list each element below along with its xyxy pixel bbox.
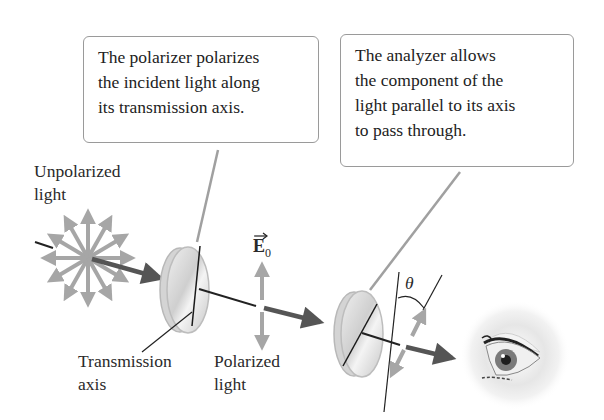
theta-label: θ <box>405 272 414 295</box>
analyzer-disk-icon <box>334 291 383 377</box>
transmitted-beam <box>406 347 452 358</box>
polarizer-callout: The polarizer polarizes the incident lig… <box>83 36 319 143</box>
polarizer-leader-line <box>197 150 218 242</box>
theta-arc <box>398 296 424 308</box>
polarizer-callout-line-1: The polarizer polarizes <box>98 45 308 70</box>
unpolarized-light-label: Unpolarized light <box>34 160 121 206</box>
unpolarized-light-star-icon <box>45 213 131 303</box>
polarizer-callout-line-3: its transmission axis. <box>98 95 308 120</box>
transmission-axis-label: Transmission axis <box>78 350 172 396</box>
eye-icon <box>460 300 570 410</box>
analyzer-callout: The analyzer allows the component of the… <box>340 34 574 167</box>
analyzer-callout-line-4: to pass through. <box>355 118 563 143</box>
analyzer-leader-line <box>370 172 460 290</box>
analyzer-axis-line <box>423 275 442 310</box>
transmitted-field-arrow-down <box>392 350 404 374</box>
transmitted-field-arrow <box>412 312 424 336</box>
analyzer-callout-line-2: the component of the <box>355 68 563 93</box>
polarizer-callout-line-2: the incident light along <box>98 70 308 95</box>
analyzer-callout-line-3: light parallel to its axis <box>355 93 563 118</box>
polarized-beam <box>264 308 320 322</box>
polarized-light-label: Polarized light <box>214 350 280 396</box>
e-field-label: E0 <box>253 235 271 265</box>
analyzer-callout-line-1: The analyzer allows <box>355 43 563 68</box>
incoming-ray <box>35 242 53 248</box>
